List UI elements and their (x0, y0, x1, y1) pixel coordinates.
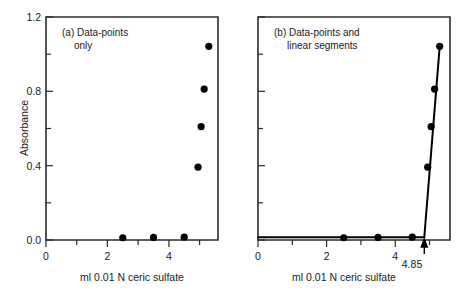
data-point (436, 43, 443, 50)
panel-b-title-line1: (b) Data-points and (274, 27, 360, 38)
panel-a-frame (46, 17, 218, 240)
panel-a: 1.2 0.8 0.4 0.0 0 2 4 (a) Data-points on… (26, 11, 218, 262)
data-point (181, 234, 188, 241)
data-point (431, 86, 438, 93)
data-point (198, 123, 205, 130)
panel-a-x-axis-title: ml 0.01 N ceric sulfate (80, 271, 184, 283)
panel-b-xtick-2: 2 (324, 250, 330, 262)
two-panel-titration-chart: 1.2 0.8 0.4 0.0 0 2 4 (a) Data-points on… (0, 0, 472, 296)
data-point (428, 123, 435, 130)
panel-b-linear-segments (258, 46, 440, 237)
panel-a-datapoints (119, 43, 212, 242)
data-point (409, 234, 416, 241)
panel-b-xtick-3: 4 (392, 250, 398, 262)
panel-b-x-axis-title: ml 0.01 N ceric sulfate (292, 271, 396, 283)
segment-rising-branch (424, 46, 439, 237)
panel-b-endpoint-marker (421, 239, 427, 254)
panel-a-ytick-3: 0.4 (26, 160, 41, 172)
panel-b-xtick-1: 0 (255, 250, 261, 262)
panel-a-y-ticks (46, 17, 53, 240)
panel-b-datapoints (340, 43, 443, 242)
panel-b-title-line2: linear segments (287, 40, 358, 51)
data-point (150, 234, 157, 241)
panel-a-xtick-1: 0 (43, 250, 49, 262)
data-point (424, 164, 431, 171)
panel-a-title-line1: (a) Data-points (62, 27, 128, 38)
panel-a-xtick-2: 2 (104, 250, 110, 262)
data-point (205, 43, 212, 50)
panel-a-xtick-3: 4 (166, 250, 172, 262)
panel-b: 0 2 4 (b) Data-points and linear segment… (255, 17, 450, 270)
panel-b-y-ticks (258, 17, 265, 240)
y-axis-title: Absorbance (18, 100, 30, 156)
panel-a-ytick-4: 0.0 (26, 234, 41, 246)
panel-a-ytick-1: 1.2 (26, 11, 41, 23)
data-point (374, 234, 381, 241)
figure-root: 1.2 0.8 0.4 0.0 0 2 4 (a) Data-points on… (0, 0, 472, 296)
data-point (340, 234, 347, 241)
data-point (119, 234, 126, 241)
panel-a-title-line2: only (74, 40, 92, 51)
data-point (201, 86, 208, 93)
data-point (194, 164, 201, 171)
panel-b-endpoint-label: 4.85 (402, 258, 423, 270)
panel-a-ytick-2: 0.8 (26, 85, 41, 97)
